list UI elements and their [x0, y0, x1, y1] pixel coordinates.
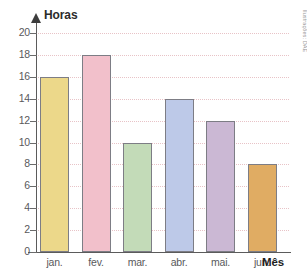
- y-axis-tick-label: 16: [6, 70, 30, 82]
- y-axis-tick-label: 4: [6, 201, 30, 213]
- bar-jan: [40, 77, 69, 252]
- gridline: [36, 121, 289, 122]
- y-axis-tick-label: 10: [6, 136, 30, 148]
- gridline: [36, 99, 289, 100]
- bar-fev: [82, 55, 111, 252]
- y-axis-tick-label: 20: [6, 26, 30, 38]
- x-axis-tick-label: abr.: [159, 256, 200, 268]
- y-axis-tick: [30, 208, 37, 209]
- image-credit: Ilustrações: DAE: [303, 10, 307, 53]
- y-axis-arrow-icon: [31, 13, 41, 23]
- y-axis-tick: [30, 33, 37, 34]
- y-axis-title: Horas: [44, 8, 78, 22]
- y-axis-tick: [30, 121, 37, 122]
- gridline: [36, 77, 289, 78]
- x-axis-tick-label: fev.: [76, 256, 117, 268]
- y-axis-tick-label: 8: [6, 157, 30, 169]
- x-axis-line: [28, 252, 291, 253]
- y-axis-line: [36, 22, 37, 252]
- y-axis-tick: [30, 143, 37, 144]
- y-axis-tick: [30, 186, 37, 187]
- bar-mai: [206, 121, 235, 252]
- bar-chart: 02468101214161820 jan.fev.mar.abr.mai.ju…: [0, 0, 307, 280]
- x-axis-tick-label: jan.: [34, 256, 75, 268]
- y-axis-tick-label: 0: [6, 245, 30, 257]
- bar-jun: [248, 164, 277, 252]
- y-axis-tick: [30, 55, 37, 56]
- y-axis-tick-label: 14: [6, 92, 30, 104]
- bar-abr: [165, 99, 194, 252]
- x-axis-tick-label: mai.: [200, 256, 241, 268]
- y-axis-tick: [30, 99, 37, 100]
- y-axis-tick: [30, 252, 37, 253]
- y-axis-tick-label: 12: [6, 114, 30, 126]
- y-axis-tick: [30, 230, 37, 231]
- y-axis-tick: [30, 164, 37, 165]
- y-axis-tick-label: 18: [6, 48, 30, 60]
- x-axis-title: Mês: [262, 256, 284, 268]
- gridline: [36, 143, 289, 144]
- y-axis-tick: [30, 77, 37, 78]
- y-axis-tick-label: 2: [6, 223, 30, 235]
- gridline: [36, 33, 289, 34]
- bar-mar: [123, 143, 152, 253]
- y-axis-tick-label: 6: [6, 179, 30, 191]
- gridline: [36, 55, 289, 56]
- x-axis-tick-label: mar.: [117, 256, 158, 268]
